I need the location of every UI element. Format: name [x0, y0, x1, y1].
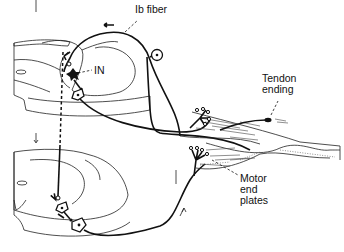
- label-interneuron: IN: [94, 65, 105, 76]
- label-motor-end-plates-3: plates: [240, 195, 268, 206]
- interneuron: [66, 68, 80, 81]
- lower-muscle: [196, 143, 340, 169]
- neural-pathway-diagram: Ib fiber IN Tendon ending Motor end plat…: [0, 0, 344, 252]
- dorsal-root-ganglion: [150, 50, 163, 61]
- label-ib-fiber: Ib fiber: [135, 4, 167, 15]
- diagram-drawing: [0, 0, 344, 252]
- descending-axon: [58, 145, 60, 196]
- upper-motor-neuron: [72, 89, 84, 100]
- ib-fiber-path: [64, 32, 180, 136]
- arrow-icon: [104, 23, 114, 27]
- upper-spinal-cord: [14, 40, 150, 116]
- tendon-ending: [220, 101, 288, 130]
- lower-interneuron: [56, 202, 68, 213]
- label-tendon-ending-2: ending: [262, 84, 294, 95]
